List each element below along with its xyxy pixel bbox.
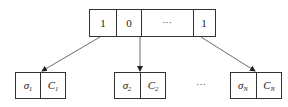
pair-box-1: σ1 C1 xyxy=(16,73,66,99)
arrows xyxy=(42,37,255,71)
pair-box-n: σN CN xyxy=(231,73,282,99)
pairs-ellipsis: ⋯ xyxy=(196,79,206,90)
bit-ellipsis: ⋯ xyxy=(162,17,172,28)
diagram-canvas: 1 0 ⋯ 1 σ1 C1 σ2 C2 ⋯ σN CN xyxy=(0,0,288,107)
bit-value-2: 0 xyxy=(126,17,132,29)
bit-value-last: 1 xyxy=(201,17,207,29)
arrow-to-pair-1 xyxy=(42,37,100,71)
pair-box-2: σ2 C2 xyxy=(115,73,166,99)
top-bit-array: 1 0 ⋯ 1 xyxy=(90,10,216,37)
arrow-to-pair-n xyxy=(201,37,255,71)
bit-value-1: 1 xyxy=(100,17,106,29)
